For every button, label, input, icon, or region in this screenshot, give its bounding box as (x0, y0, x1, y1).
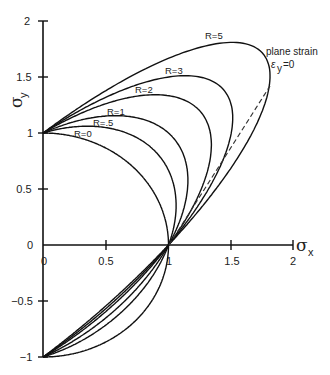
epsilon-label: ε y =0 (271, 59, 295, 74)
curve-r5 (43, 42, 270, 357)
x-tick-label: 1.5 (224, 255, 239, 267)
y-tick-label: 1 (27, 127, 33, 139)
x-tick-label: 2 (290, 255, 296, 267)
yield-locus-chart: 2 1.5 1 0.5 0 −0.5 −1 0 0.5 1 1.5 2 σ y … (0, 0, 330, 375)
svg-text:=0: =0 (283, 59, 295, 70)
yield-curves (43, 42, 270, 357)
svg-text:σ: σ (296, 235, 308, 255)
y-tick-label: 1.5 (16, 71, 31, 83)
label-r3: R=3 (165, 65, 183, 76)
label-r05: R=.5 (93, 117, 113, 128)
curve-r5 (43, 126, 176, 357)
label-r2: R=2 (135, 84, 153, 95)
svg-text:x: x (308, 246, 314, 258)
svg-text:ε: ε (271, 59, 276, 70)
y-tick-label: −1 (20, 351, 33, 363)
label-r0: R=0 (74, 128, 92, 139)
x-tick-label: 0.5 (98, 255, 113, 267)
y-tick-label: 2 (24, 15, 30, 27)
y-tick-label: 0 (27, 239, 33, 251)
x-axis-title: σ x (296, 235, 314, 258)
svg-text:y: y (277, 63, 282, 74)
plane-strain-label: plane strain (266, 46, 318, 57)
y-tick-label: −0.5 (11, 295, 33, 307)
curve-r1 (43, 116, 188, 357)
y-tick-label: 0.5 (16, 183, 31, 195)
svg-text:y: y (17, 92, 29, 98)
label-r5: R=5 (205, 30, 223, 41)
y-axis-title: σ y (6, 92, 29, 108)
label-r1: R=1 (107, 106, 125, 117)
plane-strain-line (169, 86, 270, 245)
x-tick-label: 0 (41, 255, 47, 267)
